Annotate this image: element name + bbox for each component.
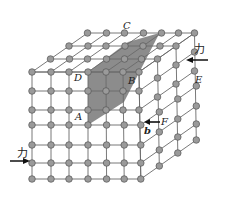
atom [156, 147, 163, 154]
atom [138, 142, 145, 149]
lattice-bond [139, 71, 195, 110]
atom [173, 62, 180, 69]
label-a: A [75, 112, 82, 122]
atom [175, 116, 182, 123]
atom [85, 107, 92, 114]
atom [29, 176, 36, 183]
atom [66, 122, 73, 129]
atom [103, 160, 110, 167]
force-label-left: 力 [17, 148, 28, 159]
label-b: B [128, 76, 135, 86]
atom [140, 30, 147, 37]
atom [156, 163, 163, 170]
atom [29, 107, 36, 114]
atom [138, 56, 145, 63]
atom [138, 176, 145, 183]
atom [29, 69, 36, 76]
label-e: E [195, 75, 202, 85]
atom [175, 134, 182, 141]
atom [85, 88, 92, 95]
atom [103, 88, 110, 95]
atom [175, 30, 182, 37]
atom [175, 96, 182, 103]
label-d: D [74, 73, 82, 83]
atom [29, 142, 36, 149]
atom [48, 176, 55, 183]
atom [121, 160, 128, 167]
atom [48, 122, 55, 129]
atom [48, 160, 55, 167]
atom [191, 30, 198, 37]
atom [85, 142, 92, 149]
lattice-bond [139, 52, 195, 91]
atom [66, 56, 73, 63]
force-arrowhead-right [186, 57, 193, 63]
atom [29, 88, 36, 95]
atom [66, 176, 73, 183]
atom [136, 69, 143, 76]
atom [120, 88, 127, 95]
atom [66, 142, 73, 149]
atom [48, 88, 55, 95]
atom [103, 122, 110, 129]
atom [48, 107, 55, 114]
atom [136, 88, 143, 95]
atom [85, 176, 92, 183]
force-label-right: 力 [194, 44, 205, 55]
atom [173, 81, 180, 88]
atom [48, 142, 55, 149]
atom [157, 43, 164, 50]
atom [121, 122, 128, 129]
atom [120, 69, 127, 76]
atom [66, 43, 73, 50]
atom [136, 107, 143, 114]
atom [103, 176, 110, 183]
atom [84, 56, 91, 63]
lattice-bond [141, 86, 197, 125]
atom [154, 75, 161, 82]
atom [122, 43, 129, 50]
atom [47, 56, 54, 63]
atom [156, 109, 163, 116]
atom [154, 56, 161, 63]
atom [103, 142, 110, 149]
label-f: F [161, 117, 168, 127]
atom [66, 69, 73, 76]
atom [103, 43, 110, 50]
atom [175, 150, 182, 157]
atom [85, 160, 92, 167]
atom [103, 56, 110, 63]
atom [103, 69, 110, 76]
atom [103, 107, 110, 114]
atom [158, 30, 165, 37]
lattice-bond [141, 140, 197, 179]
atom [85, 43, 92, 50]
crystal-lattice-diagram [0, 0, 225, 221]
atom [66, 160, 73, 167]
atom [29, 122, 36, 129]
atom [156, 129, 163, 136]
atom [103, 30, 110, 37]
label-c: C [123, 21, 131, 31]
atom [121, 176, 128, 183]
atom [193, 137, 200, 144]
atom [154, 94, 161, 101]
label-burgers-vector: b [144, 126, 151, 136]
atom [84, 30, 91, 37]
atom [140, 43, 147, 50]
atom [66, 107, 73, 114]
atom [48, 69, 55, 76]
atom [85, 122, 92, 129]
atom [85, 69, 92, 76]
atom [29, 160, 36, 167]
atom [120, 107, 127, 114]
atom [138, 160, 145, 167]
atom [173, 43, 180, 50]
atom [121, 142, 128, 149]
atom [121, 56, 128, 63]
atom [193, 121, 200, 128]
atom [66, 88, 73, 95]
atom [193, 103, 200, 110]
